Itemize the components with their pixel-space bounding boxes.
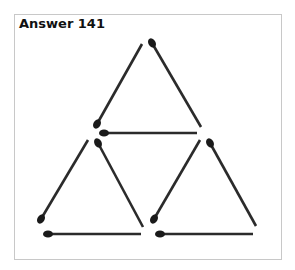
matchstick-head-icon <box>91 118 102 130</box>
matchstick-body <box>98 143 143 227</box>
matchstick-head-icon <box>43 230 53 237</box>
matchstick-top-right <box>146 37 201 127</box>
matchstick-bottom-left <box>43 230 141 237</box>
matchstick-middle-horizontal <box>99 129 197 136</box>
matchstick-body <box>97 44 142 124</box>
matchstick-lower-right-left <box>148 140 200 225</box>
matchstick-diagram <box>0 0 295 270</box>
matchstick-head-icon <box>92 137 103 149</box>
matchstick-top-left <box>91 44 142 130</box>
matchstick-lower-left-right <box>92 137 143 227</box>
matchstick-bottom-right <box>155 230 253 237</box>
matchstick-head-icon <box>155 230 165 237</box>
matchstick-lower-right-right <box>204 137 256 226</box>
matchstick-body <box>154 140 200 219</box>
matchstick-body <box>41 140 88 219</box>
matchstick-body <box>210 143 256 226</box>
matchstick-lower-left-left <box>35 140 88 225</box>
matchstick-head-icon <box>99 129 109 136</box>
matchstick-head-icon <box>204 137 215 149</box>
matchstick-body <box>152 43 201 127</box>
